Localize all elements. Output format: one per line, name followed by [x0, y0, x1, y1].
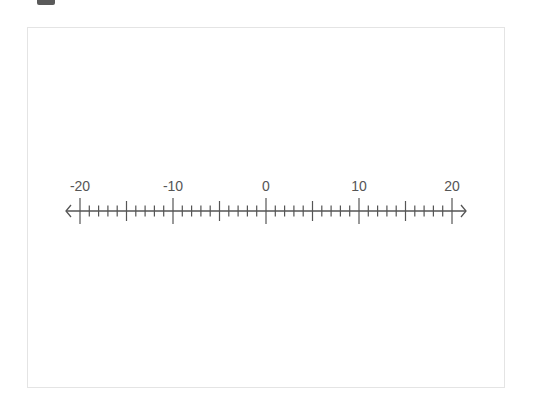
tick-label: 20: [444, 178, 460, 194]
tick-labels: -20 -10 0 10 20: [70, 178, 460, 194]
ticks: [80, 198, 452, 224]
tick-label: -20: [70, 178, 90, 194]
tick-label: 0: [262, 178, 270, 194]
tick-label: -10: [163, 178, 183, 194]
tick-label: 10: [351, 178, 367, 194]
number-line: -20 -10 0 10 20: [0, 0, 536, 402]
